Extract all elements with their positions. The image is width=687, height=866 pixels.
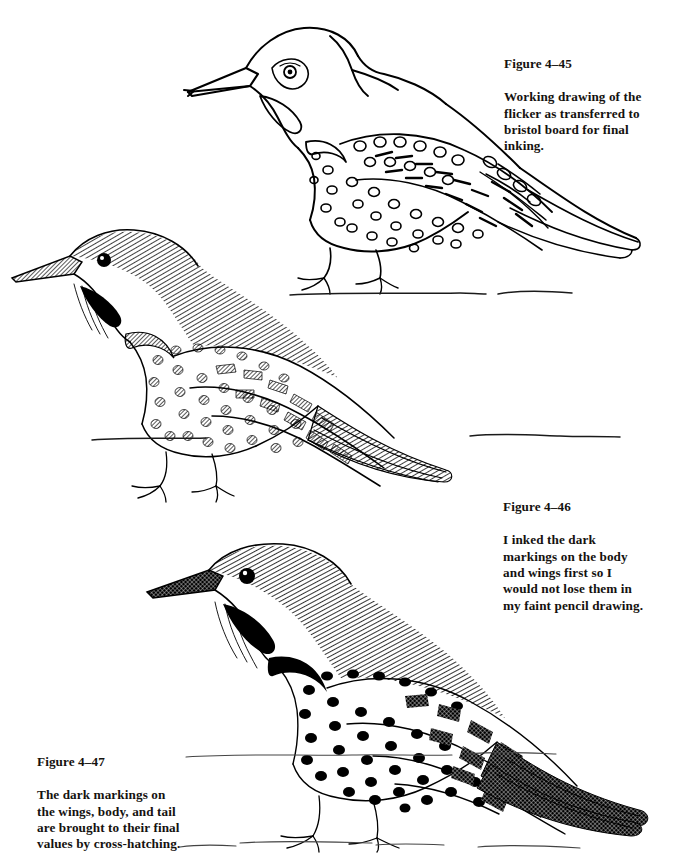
- figure-label-4-45: Figure 4–45: [504, 56, 687, 72]
- figure-label-4-46: Figure 4–46: [503, 499, 687, 515]
- figure-label-4-47: Figure 4–47: [37, 754, 247, 770]
- figure-caption-text-4-45: Working drawing of the flicker as transf…: [504, 89, 687, 155]
- caption-figure-4-46: Figure 4–46 I inked the dark markings on…: [503, 483, 687, 631]
- figure-caption-text-4-47: The dark markings on the wings, body, an…: [37, 787, 247, 853]
- figure-4-46-illustration: [8, 238, 488, 508]
- caption-figure-4-45: Figure 4–45 Working drawing of the flick…: [504, 40, 687, 171]
- book-page: Figure 4–45 Working drawing of the flick…: [0, 0, 687, 866]
- figure-caption-text-4-46: I inked the dark markings on the body an…: [503, 532, 687, 614]
- caption-figure-4-47: Figure 4–47 The dark markings on the win…: [37, 738, 247, 866]
